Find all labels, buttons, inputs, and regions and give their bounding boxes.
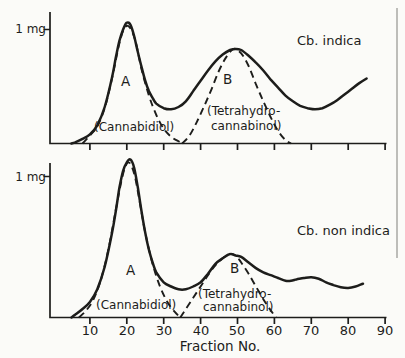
cannabidiol-annotation-top: (Cannabidiol) [94, 121, 174, 134]
peak-b-label-top: B [223, 72, 232, 86]
x-tick-label-60: 60 [261, 323, 287, 338]
peak-b-label-bottom: B [230, 261, 239, 275]
x-tick-label-30: 30 [151, 323, 177, 338]
cannabidiol-annotation-bottom: (Cannabidiol) [96, 299, 176, 312]
peak-a-label-bottom: A [126, 263, 135, 277]
thc-annotation-line2-top: cannabinol) [211, 120, 281, 133]
x-tick-label-10: 10 [77, 323, 103, 338]
chart-title-non-indica: Cb. non indica [297, 224, 390, 238]
thc-annotation-line2-bottom: cannabinol) [203, 301, 273, 314]
thc-annotation-line1-top: (Tetrahydro- [207, 105, 280, 118]
x-tick-label-40: 40 [188, 323, 214, 338]
x-tick-label-50: 50 [224, 323, 250, 338]
thc-annotation-line1-bottom: (Tetrahydro- [198, 288, 271, 301]
x-tick-label-80: 80 [335, 323, 361, 338]
y-axis-label-bottom: 1 mg [6, 171, 46, 184]
x-tick-label-70: 70 [298, 323, 324, 338]
peak-a-label-top: A [121, 74, 130, 88]
scan-edge-artifact [396, 8, 398, 258]
x-tick-label-20: 20 [114, 323, 140, 338]
x-tick-label-90: 90 [372, 323, 398, 338]
x-axis-title: Fraction No. [165, 339, 275, 353]
chromatography-figure: 1 mg Cb. indica A B (Cannabidiol) (Tetra… [0, 0, 405, 358]
y-axis-label-top: 1 mg [6, 23, 46, 36]
chart-title-indica: Cb. indica [297, 34, 361, 48]
